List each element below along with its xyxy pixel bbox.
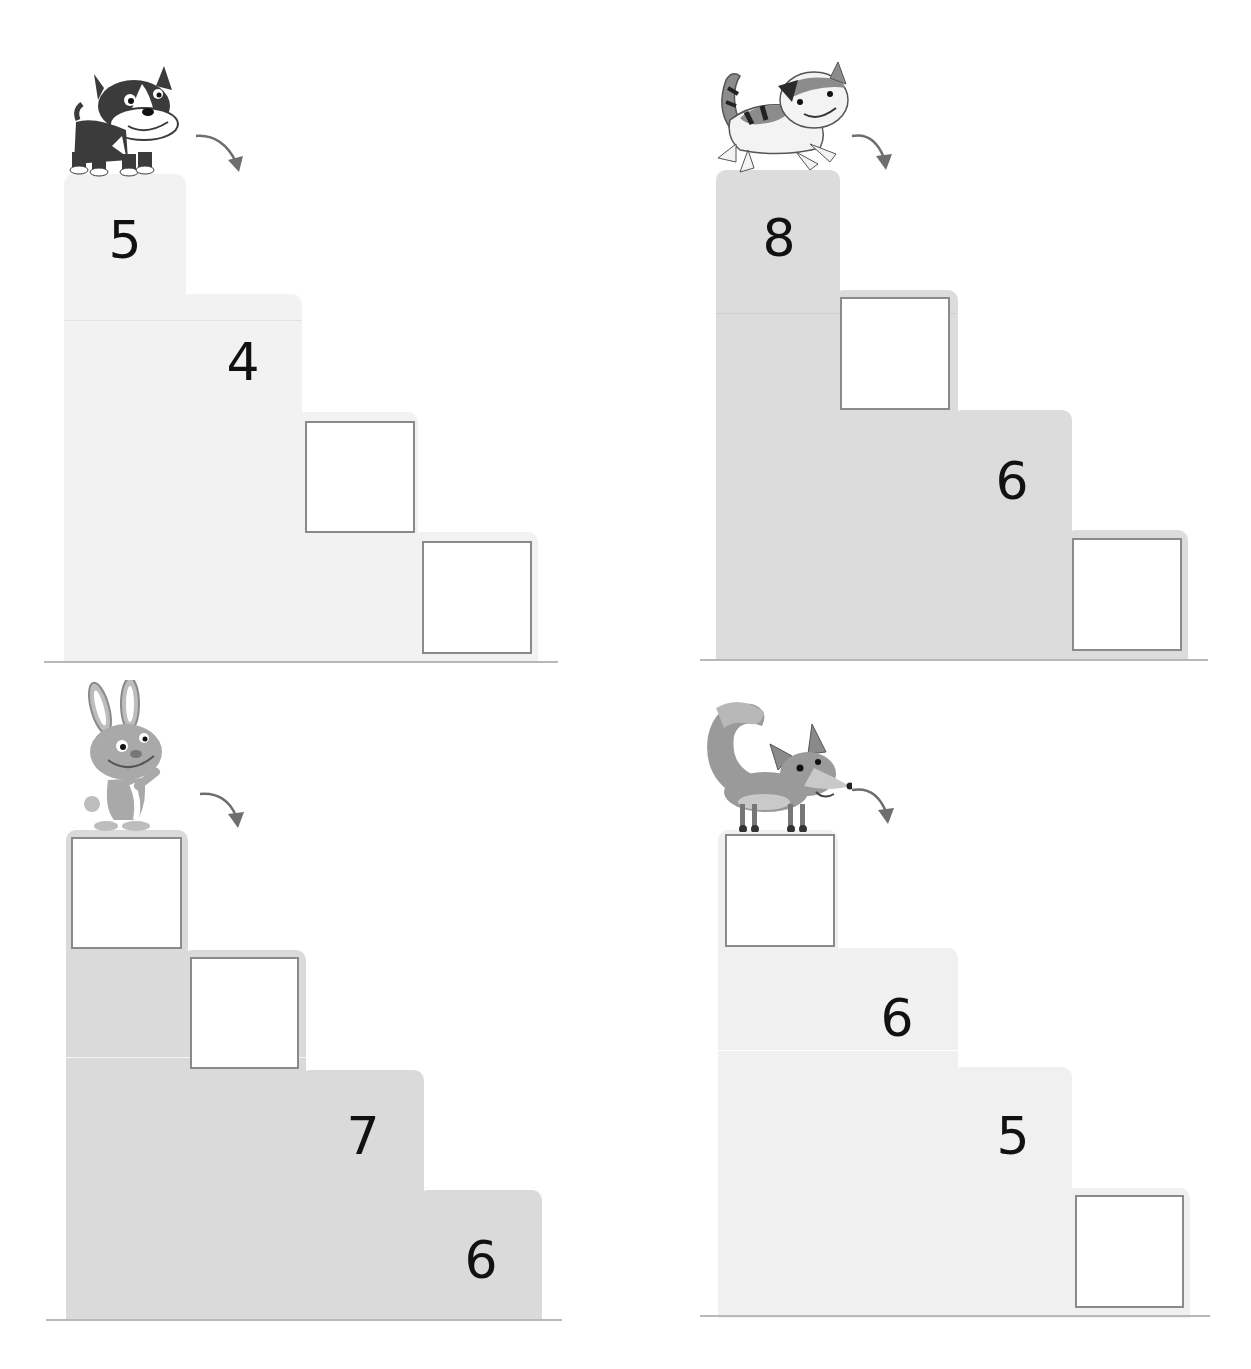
- step-number: 6: [867, 992, 927, 1044]
- fox-icon: [700, 696, 852, 832]
- answer-box[interactable]: [725, 834, 835, 947]
- ground-line: [700, 1315, 1210, 1317]
- step-3: [952, 1067, 1072, 1318]
- step-number: 5: [983, 1110, 1043, 1162]
- staircase-puzzle-fox: 6 5: [0, 0, 1251, 1369]
- answer-box[interactable]: [1075, 1195, 1184, 1308]
- curved-arrow-icon: [850, 784, 910, 832]
- step-seam: [718, 1050, 958, 1051]
